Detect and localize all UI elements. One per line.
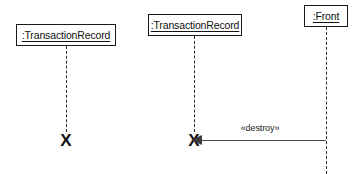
lifeline-head-front[interactable]: :Front (304, 5, 348, 27)
lifeline-label-transaction-record-2: :TransactionRecord (151, 20, 240, 31)
termination-marker-transaction-record-1: X (60, 132, 71, 149)
lifeline-dashes-transaction-record-2 (194, 36, 195, 132)
lifeline-dashes-transaction-record-1 (66, 46, 67, 132)
lifeline-label-front: :Front (313, 11, 340, 22)
destroy-message-label: «destroy» (241, 123, 280, 133)
lifeline-head-transaction-record-1[interactable]: :TransactionRecord (16, 24, 116, 46)
destroy-message-arrowhead-icon (191, 135, 202, 145)
lifeline-head-transaction-record-2[interactable]: :TransactionRecord (148, 14, 242, 36)
lifeline-dashes-front (326, 27, 327, 174)
destroy-message-line[interactable] (202, 140, 326, 141)
lifeline-label-transaction-record-1: :TransactionRecord (22, 30, 111, 41)
sequence-diagram-canvas: :TransactionRecord X :TransactionRecord … (0, 0, 356, 174)
